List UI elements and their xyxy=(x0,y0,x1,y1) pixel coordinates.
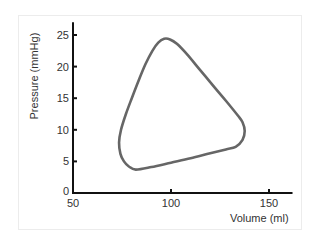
pressure-volume-chart: 051015202550100150 Pressure (mmHg) Volum… xyxy=(0,0,313,243)
y-tick-label: 15 xyxy=(57,92,69,104)
ticks: 051015202550100150 xyxy=(57,29,278,209)
series-marks xyxy=(119,39,245,170)
y-tick-label: 10 xyxy=(57,124,69,136)
y-axis-title: Pressure (mmHg) xyxy=(28,33,40,120)
pressure-volume-loop xyxy=(119,39,245,170)
x-tick-label: 150 xyxy=(260,197,278,209)
y-tick-label: 25 xyxy=(57,29,69,41)
x-axis-title: Volume (ml) xyxy=(230,212,289,224)
y-tick-label: 0 xyxy=(63,185,69,197)
x-tick-label: 50 xyxy=(67,197,79,209)
y-tick-label: 20 xyxy=(57,61,69,73)
x-tick-label: 100 xyxy=(162,197,180,209)
y-tick-label: 5 xyxy=(63,155,69,167)
